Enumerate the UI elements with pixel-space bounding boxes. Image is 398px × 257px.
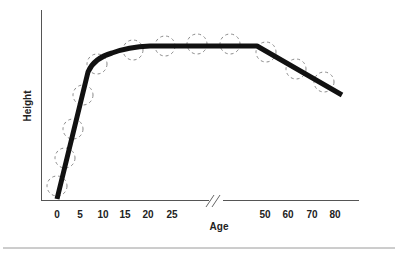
height-curve	[57, 46, 342, 199]
x-tick: 15	[119, 209, 131, 220]
x-tick: 60	[282, 209, 294, 220]
x-tick: 20	[142, 209, 154, 220]
x-tick: 70	[306, 209, 318, 220]
x-tick: 5	[77, 209, 83, 220]
sample-point-circles	[47, 34, 334, 196]
y-axis-label: Height	[22, 90, 33, 122]
x-tick: 50	[259, 209, 271, 220]
x-tick: 80	[329, 209, 341, 220]
x-tick: 25	[166, 209, 178, 220]
x-axis-label: Age	[210, 221, 229, 232]
x-tick: 10	[97, 209, 109, 220]
height-vs-age-chart: 0 5 10 15 20 25 50 60 70 80 Age Height	[0, 0, 398, 257]
x-tick: 0	[54, 209, 60, 220]
x-tick-labels: 0 5 10 15 20 25 50 60 70 80	[54, 209, 341, 220]
